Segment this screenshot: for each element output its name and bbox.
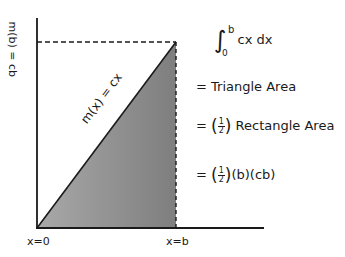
x-start-label: x=0	[27, 235, 50, 248]
rectangle-area-text: Rectangle Area	[236, 118, 335, 133]
integrand: cx dx	[238, 32, 273, 47]
integral-upper: b	[228, 24, 234, 35]
fraction-half: 12	[218, 118, 225, 135]
equals-sign: =	[196, 167, 207, 182]
equation-half-b-cb: = (12)(b)(cb)	[196, 165, 275, 185]
integral-expression: ∫ b 0 cx dx	[214, 26, 267, 54]
equation-triangle-area: = Triangle Area	[196, 79, 296, 94]
equals-sign: =	[196, 118, 207, 133]
x-end-label: x=b	[166, 235, 189, 248]
fraction-half: 12	[218, 167, 225, 184]
b-cb-text: (b)(cb)	[231, 167, 275, 182]
integral-lower: 0	[222, 48, 228, 58]
y-axis-label: m(b) = cb	[6, 22, 19, 72]
equation-half-rectangle: = (12) Rectangle Area	[196, 116, 334, 136]
